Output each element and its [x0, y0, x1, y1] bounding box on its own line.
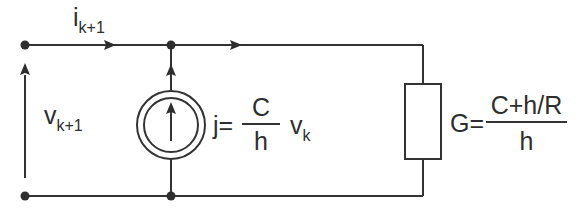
- voltage-symbol: v: [44, 101, 57, 129]
- source-factor-subscript: k: [303, 127, 311, 144]
- source-factor-symbol: v: [290, 111, 303, 139]
- conductance-resistor: [405, 84, 441, 159]
- conductance-equation-lhs: G=: [450, 111, 484, 136]
- voltage-arrow-head-icon: [20, 63, 30, 75]
- node-top-mid: [167, 41, 176, 50]
- node-top-left: [21, 41, 30, 50]
- current-symbol: i: [73, 3, 79, 31]
- source-equation-lhs: j=: [213, 113, 233, 138]
- voltage-subscript: k+1: [57, 117, 83, 134]
- node-bottom-left: [21, 192, 30, 201]
- voltage-label: vk+1: [44, 103, 83, 128]
- node-bottom-mid: [167, 192, 176, 201]
- source-numerator: C: [242, 95, 280, 120]
- conductance-denominator: h: [486, 129, 567, 154]
- source-denominator: h: [242, 129, 280, 154]
- current-subscript: k+1: [79, 19, 105, 36]
- conductance-numerator: C+h/R: [486, 93, 567, 118]
- source-factor: vk: [290, 113, 311, 138]
- current-label: ik+1: [73, 5, 105, 30]
